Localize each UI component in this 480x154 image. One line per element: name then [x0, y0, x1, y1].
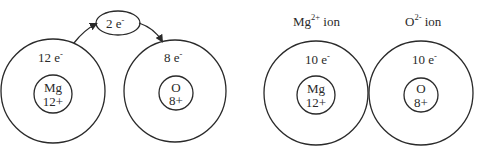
mg-nucleus-charge: 12+	[43, 94, 63, 109]
mg-ion-title: Mg2+ ion	[293, 12, 340, 29]
mg-ion-electron-count: 10 e-	[305, 51, 330, 67]
ionic-bond-diagram: 12 e- Mg 12+ 8 e- O 8+ 2 e- Mg2+ ion 10 …	[0, 0, 480, 154]
mg-ion: Mg2+ ion 10 e- Mg 12+	[264, 12, 368, 145]
o-electron-count: 8 e-	[164, 49, 183, 65]
mg-symbol: Mg	[44, 80, 63, 95]
o-ion-symbol: O	[416, 81, 425, 96]
mg-electron-count: 12 e-	[38, 49, 63, 65]
electron-transfer: 2 e-	[74, 11, 162, 43]
arrow-to-o-icon	[139, 23, 162, 41]
transferred-electrons-label: 2 e-	[106, 15, 125, 31]
o-ion-electron-count: 10 e-	[412, 51, 437, 67]
o-atom: 8 e- O 8+	[124, 40, 226, 142]
mg-atom: 12 e- Mg 12+	[1, 39, 105, 143]
arrow-from-mg-icon	[74, 24, 96, 43]
o-ion-nucleus-charge: 8+	[414, 95, 428, 110]
mg-ion-nucleus-charge: 12+	[306, 95, 326, 110]
o-ion: O2- ion 10 e- O 8+	[369, 12, 473, 145]
mg-ion-symbol: Mg	[307, 81, 326, 96]
o-ion-title: O2- ion	[405, 12, 442, 29]
o-nucleus-charge: 8+	[169, 93, 183, 108]
